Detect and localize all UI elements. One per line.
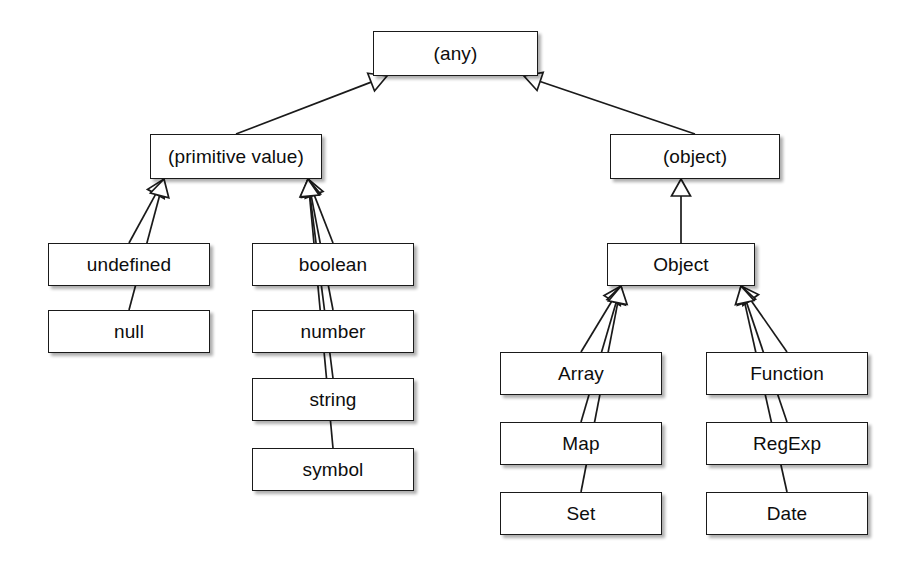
class-box-null[interactable]: null <box>48 310 210 353</box>
class-box-number[interactable]: number <box>252 310 414 353</box>
class-box-boolean[interactable]: boolean <box>252 243 414 286</box>
class-box-label: boolean <box>299 255 367 274</box>
class-box-label: Date <box>767 504 808 523</box>
edge-line <box>540 81 695 134</box>
edge-line <box>581 301 612 352</box>
edge-line <box>751 300 787 352</box>
generalization-arrowhead-icon <box>735 286 754 305</box>
class-box-label: Object <box>653 255 709 274</box>
generalization-edge-primitive-to-any <box>236 73 387 134</box>
class-box-Date[interactable]: Date <box>706 492 868 535</box>
class-box-string[interactable]: string <box>252 378 414 421</box>
generalization-arrowhead-icon <box>737 286 755 305</box>
class-box-label: (object) <box>663 147 727 166</box>
class-box-RegExp[interactable]: RegExp <box>706 422 868 465</box>
generalization-arrowhead-icon <box>608 286 627 304</box>
class-box-label: symbol <box>303 460 364 479</box>
class-box-label: (primitive value) <box>168 147 304 166</box>
generalization-arrowhead-icon <box>604 286 621 305</box>
edge-line <box>129 194 156 243</box>
generalization-edge-undefined-to-primitive <box>129 179 164 243</box>
generalization-arrowhead-icon <box>607 286 625 305</box>
generalization-arrowhead-icon <box>148 179 165 198</box>
class-box-Set[interactable]: Set <box>500 492 662 535</box>
generalization-arrowhead-icon <box>305 179 323 198</box>
generalization-arrowhead-icon <box>672 179 691 196</box>
class-box-primitive[interactable]: (primitive value) <box>150 134 322 179</box>
class-box-label: number <box>300 322 365 341</box>
generalization-edge-boolean-to-primitive <box>305 179 333 243</box>
generalization-arrowhead-icon <box>741 286 759 305</box>
class-box-label: Function <box>750 364 824 383</box>
generalization-arrowhead-icon <box>150 179 168 198</box>
class-box-label: null <box>114 322 144 341</box>
generalization-edge-object-to-any <box>524 72 695 134</box>
class-box-Object[interactable]: Object <box>607 243 755 286</box>
generalization-arrowhead-icon <box>301 179 320 197</box>
class-box-label: string <box>309 390 356 409</box>
class-box-Array[interactable]: Array <box>500 352 662 395</box>
generalization-arrowhead-icon <box>302 179 321 197</box>
generalization-edge-Array-to-Object <box>581 286 621 352</box>
generalization-edge-Object-to-object <box>672 179 691 243</box>
class-box-undefined[interactable]: undefined <box>48 243 210 286</box>
class-box-object[interactable]: (object) <box>610 134 780 179</box>
class-box-label: Map <box>562 434 599 453</box>
generalization-arrowhead-icon <box>300 179 319 197</box>
class-box-label: (any) <box>434 44 478 63</box>
class-box-label: Set <box>567 504 596 523</box>
edge-line <box>314 195 333 243</box>
class-diagram-canvas: (any)(primitive value)(object)undefinedn… <box>0 0 919 569</box>
class-box-symbol[interactable]: symbol <box>252 448 414 491</box>
edge-line <box>236 82 371 134</box>
class-box-label: Array <box>558 364 604 383</box>
generalization-edge-Function-to-Object <box>741 286 787 352</box>
class-box-Map[interactable]: Map <box>500 422 662 465</box>
class-box-Function[interactable]: Function <box>706 352 868 395</box>
class-box-label: RegExp <box>753 434 821 453</box>
class-box-any[interactable]: (any) <box>373 31 538 76</box>
class-box-label: undefined <box>87 255 171 274</box>
